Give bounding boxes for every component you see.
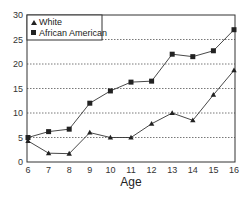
x-tick-label: 12: [147, 165, 157, 175]
x-tick-label: 6: [25, 165, 30, 175]
square-marker-icon: [149, 79, 154, 84]
x-tick-label: 9: [87, 165, 92, 175]
square-marker-icon: [211, 48, 216, 53]
x-axis-title: Age: [120, 175, 142, 189]
triangle-marker-icon: [87, 130, 92, 135]
legend-label-white: White: [39, 17, 62, 27]
x-axis-ticks: 678910111213141516: [25, 165, 239, 175]
y-tick-label: 20: [13, 59, 23, 69]
y-tick-label: 30: [13, 10, 23, 20]
x-tick-label: 7: [46, 165, 51, 175]
x-tick-label: 13: [167, 165, 177, 175]
line-chart: 051015202530 678910111213141516 Age Whit…: [0, 0, 250, 197]
triangle-marker-icon: [231, 68, 236, 73]
square-marker-icon: [87, 101, 92, 106]
y-axis-ticks: 051015202530: [13, 10, 23, 167]
square-marker-icon: [67, 127, 72, 132]
square-marker-icon: [108, 88, 113, 93]
y-tick-label: 25: [13, 35, 23, 45]
square-marker-icon: [170, 52, 175, 57]
x-tick-label: 16: [229, 165, 239, 175]
x-tick-label: 15: [208, 165, 218, 175]
legend: White African American: [27, 15, 107, 40]
square-marker-icon: [26, 135, 31, 140]
data-series: [25, 27, 236, 155]
square-marker-icon: [232, 27, 237, 32]
square-marker-icon: [46, 129, 51, 134]
x-tick-label: 11: [126, 165, 135, 175]
legend-label-african-american: African American: [39, 28, 107, 38]
y-tick-label: 0: [18, 157, 23, 167]
square-marker-icon: [190, 54, 195, 59]
y-tick-label: 5: [18, 133, 23, 143]
x-tick-label: 14: [188, 165, 198, 175]
gridlines: [27, 40, 235, 138]
x-tick-label: 8: [67, 165, 72, 175]
y-tick-label: 15: [13, 84, 23, 94]
square-marker-icon: [129, 80, 134, 85]
x-tick-label: 10: [105, 165, 115, 175]
y-tick-label: 10: [13, 108, 23, 118]
triangle-marker-icon: [149, 121, 154, 126]
square-marker-icon: [31, 30, 36, 35]
